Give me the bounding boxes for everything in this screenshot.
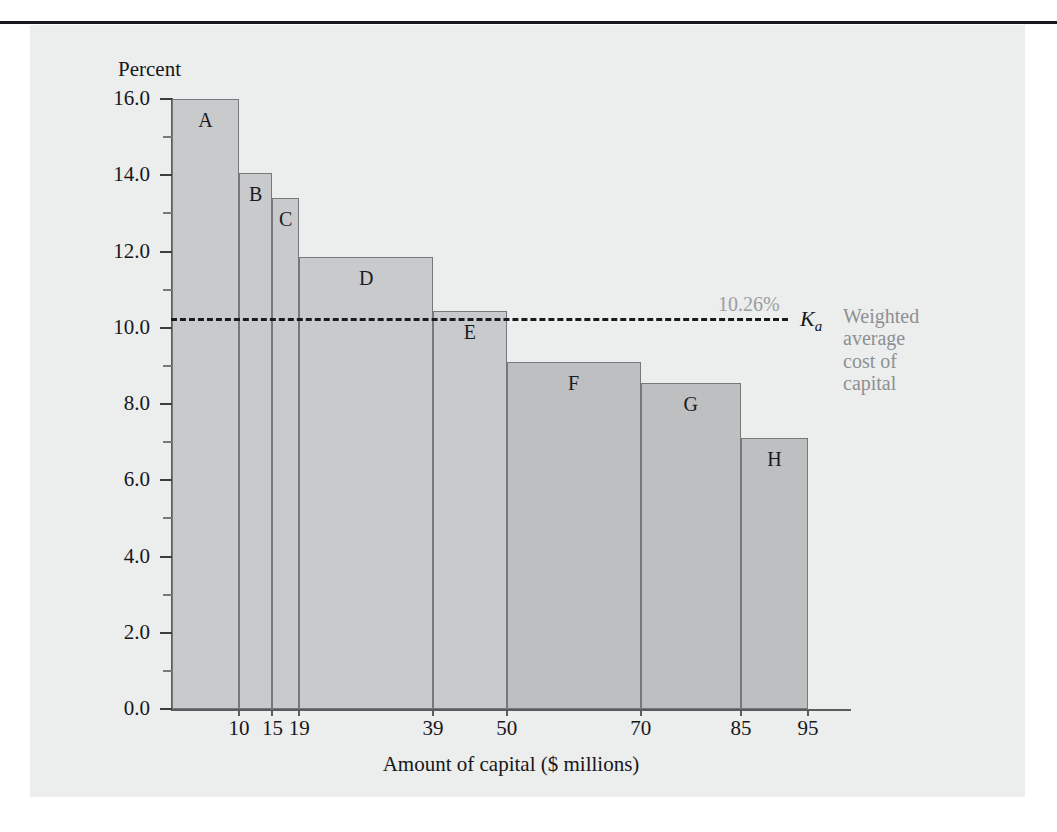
x-tick-label: 70 bbox=[630, 718, 651, 739]
y-tick-major bbox=[160, 632, 172, 634]
bar-b: B bbox=[239, 173, 272, 709]
marginal-cost-of-capital-chart: Percent 0.02.04.06.08.010.012.014.016.0 … bbox=[0, 0, 1057, 832]
y-tick-major bbox=[160, 708, 172, 710]
y-tick-label: 12.0 bbox=[92, 241, 150, 262]
y-tick-minor bbox=[163, 212, 172, 214]
y-tick-minor bbox=[163, 670, 172, 672]
x-tick bbox=[807, 709, 809, 716]
y-tick-label: 10.0 bbox=[92, 317, 150, 338]
wacc-symbol-subscript: a bbox=[815, 318, 823, 334]
y-tick-label: 8.0 bbox=[92, 393, 150, 414]
x-tick bbox=[432, 709, 434, 716]
bar-label-f: F bbox=[508, 373, 640, 393]
bar-g: G bbox=[641, 383, 741, 709]
y-tick-major bbox=[160, 327, 172, 329]
wacc-caption-line-3: cost of bbox=[843, 350, 1003, 372]
y-tick-major bbox=[160, 403, 172, 405]
wacc-caption-line-1: Weighted bbox=[843, 305, 1003, 327]
bar-f: F bbox=[507, 362, 641, 709]
x-axis-title: Amount of capital ($ millions) bbox=[171, 752, 851, 777]
x-tick bbox=[640, 709, 642, 716]
y-axis-title: Percent bbox=[118, 57, 181, 82]
x-tick-label: 10 bbox=[228, 718, 249, 739]
y-tick-minor bbox=[163, 136, 172, 138]
x-tick bbox=[238, 709, 240, 716]
y-tick-major bbox=[160, 556, 172, 558]
x-tick bbox=[271, 709, 273, 716]
bar-label-e: E bbox=[434, 322, 506, 342]
y-tick-major bbox=[160, 251, 172, 253]
bar-label-h: H bbox=[742, 449, 807, 469]
x-tick-label: 19 bbox=[289, 718, 310, 739]
bar-e: E bbox=[433, 311, 507, 709]
bar-label-b: B bbox=[240, 184, 271, 204]
wacc-caption-line-4: capital bbox=[843, 372, 1003, 394]
y-tick-minor bbox=[163, 594, 172, 596]
x-tick-label: 50 bbox=[496, 718, 517, 739]
bar-h: H bbox=[741, 438, 808, 709]
bar-label-a: A bbox=[173, 110, 238, 130]
y-tick-label: 16.0 bbox=[92, 88, 150, 109]
y-tick-minor bbox=[163, 517, 172, 519]
y-tick-major bbox=[160, 98, 172, 100]
x-tick-label: 15 bbox=[262, 718, 283, 739]
y-tick-label: 4.0 bbox=[92, 546, 150, 567]
bar-label-c: C bbox=[273, 209, 298, 229]
wacc-caption: Weighted average cost of capital bbox=[843, 305, 1003, 395]
x-tick bbox=[506, 709, 508, 716]
y-tick-minor bbox=[163, 289, 172, 291]
wacc-value-label: 10.26% bbox=[718, 294, 780, 314]
y-tick-label: 2.0 bbox=[92, 622, 150, 643]
y-tick-minor bbox=[163, 365, 172, 367]
wacc-reference-line bbox=[171, 318, 788, 321]
y-tick-label: 14.0 bbox=[92, 164, 150, 185]
y-tick-major bbox=[160, 174, 172, 176]
y-tick-major bbox=[160, 479, 172, 481]
wacc-symbol-label: Ka bbox=[800, 308, 822, 334]
x-tick-label: 85 bbox=[731, 718, 752, 739]
x-tick bbox=[298, 709, 300, 716]
x-tick bbox=[740, 709, 742, 716]
x-tick-label: 39 bbox=[423, 718, 444, 739]
bar-label-g: G bbox=[642, 394, 740, 414]
y-tick-label: 6.0 bbox=[92, 469, 150, 490]
wacc-caption-line-2: average bbox=[843, 327, 1003, 349]
x-tick-label: 95 bbox=[798, 718, 819, 739]
bar-c: C bbox=[272, 198, 299, 709]
bar-label-d: D bbox=[300, 268, 432, 288]
bar-d: D bbox=[299, 257, 433, 709]
bar-a: A bbox=[172, 99, 239, 709]
wacc-symbol-k: K bbox=[800, 306, 815, 331]
y-tick-minor bbox=[163, 441, 172, 443]
figure-page: Percent 0.02.04.06.08.010.012.014.016.0 … bbox=[0, 0, 1057, 832]
y-tick-label: 0.0 bbox=[92, 698, 150, 719]
